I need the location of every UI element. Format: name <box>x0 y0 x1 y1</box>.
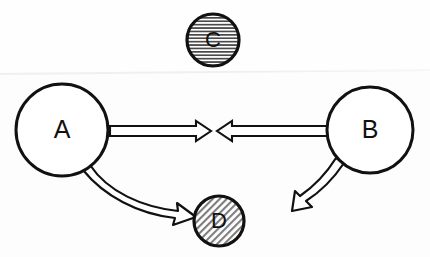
node-d-label: D <box>211 208 227 233</box>
node-c-label: C <box>205 27 221 52</box>
node-d[interactable]: D <box>194 196 244 246</box>
node-a-label: A <box>54 115 71 143</box>
node-a[interactable]: A <box>16 84 108 176</box>
node-b[interactable]: B <box>327 87 413 173</box>
diagram-svg: C A B D <box>0 0 430 257</box>
diagram-canvas: C A B D <box>0 0 430 257</box>
node-c[interactable]: C <box>187 14 239 66</box>
node-b-label: B <box>362 115 379 143</box>
